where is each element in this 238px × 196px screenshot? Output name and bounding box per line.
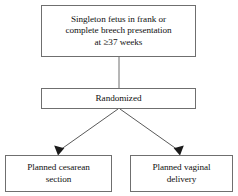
planned-cesarean-arm-label: Planned cesarean section	[6, 162, 111, 185]
eligibility-box-label: Singleton fetus in frank or complete bre…	[42, 14, 195, 48]
planned-cesarean-arm-box: Planned cesarean section	[5, 155, 112, 192]
connector-randomized-to-vaginal	[120, 109, 178, 150]
planned-vaginal-arm-label: Planned vaginal delivery	[131, 162, 232, 185]
flowchart-figure: Singleton fetus in frank or complete bre…	[0, 0, 238, 196]
randomization-box: Randomized	[41, 88, 196, 109]
arrowhead-vaginal-icon	[174, 146, 184, 156]
randomization-box-label: Randomized	[42, 93, 195, 104]
connector-randomized-to-cesarean	[60, 109, 118, 150]
eligibility-box: Singleton fetus in frank or complete bre…	[41, 5, 196, 57]
arrowhead-cesarean-icon	[54, 146, 64, 156]
planned-vaginal-arm-box: Planned vaginal delivery	[130, 155, 233, 192]
